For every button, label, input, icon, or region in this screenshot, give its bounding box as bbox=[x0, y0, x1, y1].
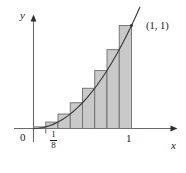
fraction-numerator: 1 bbox=[50, 130, 57, 139]
x-tick-label-one-eighth: 1 8 bbox=[50, 130, 57, 150]
point-marker-one-one bbox=[130, 24, 133, 27]
riemann-bars bbox=[34, 26, 132, 129]
riemann-bar bbox=[119, 26, 131, 129]
point-label-one-one: (1, 1) bbox=[146, 21, 169, 32]
origin-label: 0 bbox=[20, 132, 26, 143]
riemann-bar bbox=[83, 88, 95, 128]
x-tick-label-one: 1 bbox=[126, 133, 132, 144]
y-axis bbox=[31, 15, 37, 143]
riemann-sum-figure: y x 0 1 (1, 1) 1 8 bbox=[0, 0, 186, 173]
x-axis-label: x bbox=[171, 140, 176, 151]
fraction-denominator: 8 bbox=[50, 141, 57, 150]
y-axis-label: y bbox=[20, 10, 25, 21]
riemann-bar bbox=[70, 103, 82, 129]
